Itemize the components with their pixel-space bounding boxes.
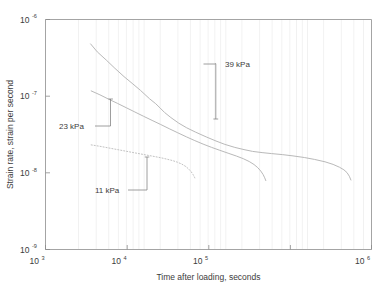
series-label-23kpa: 23 kPa (59, 122, 84, 131)
svg-text:10: 10 (193, 256, 203, 266)
strain-rate-vs-time-chart: 39 kPa 23 kPa 11 kPa (0, 0, 392, 292)
svg-text:10: 10 (20, 245, 30, 255)
x-axis-title: Time after loading, seconds (156, 272, 260, 282)
svg-text:-8: -8 (32, 167, 37, 173)
svg-text:10: 10 (20, 15, 30, 25)
svg-text:10: 10 (355, 256, 365, 266)
svg-text:10: 10 (20, 168, 30, 178)
y-axis-title: Strain rate, strain per second (5, 80, 15, 189)
chart-figure: 39 kPa 23 kPa 11 kPa (0, 0, 392, 292)
svg-text:3: 3 (42, 255, 45, 261)
series-label-39kpa: 39 kPa (225, 60, 250, 69)
svg-text:-6: -6 (32, 13, 37, 19)
svg-text:10: 10 (112, 256, 122, 266)
svg-text:4: 4 (124, 255, 127, 261)
svg-text:-7: -7 (32, 90, 37, 96)
svg-text:6: 6 (367, 255, 370, 261)
svg-text:10: 10 (20, 91, 30, 101)
chart-background (0, 0, 392, 292)
series-label-11kpa: 11 kPa (95, 186, 120, 195)
svg-text:10: 10 (30, 256, 40, 266)
svg-text:-9: -9 (32, 243, 37, 249)
svg-text:5: 5 (205, 255, 208, 261)
